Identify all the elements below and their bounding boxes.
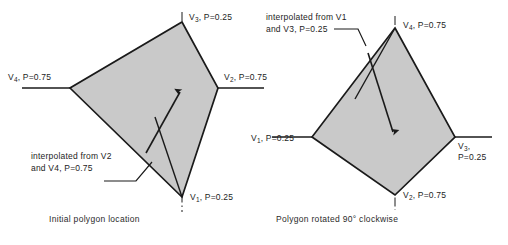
annotation-interpolated-left: interpolated from V2 and V4, P=0.75 <box>31 151 112 174</box>
panel-rotated <box>272 16 492 210</box>
vertex-label-v3-right: V3, P=0.25 <box>458 141 486 163</box>
annotation-interpolated-right: interpolated from V1 and V3, P=0.25 <box>266 12 347 35</box>
vertex-label-v3-right-line2: P=0.25 <box>458 152 486 163</box>
annotation-left-line2: and V4, P=0.75 <box>31 163 112 175</box>
vertex-label-v3-right-line1: V3, <box>458 141 486 152</box>
annotation-left-line1: interpolated from V2 <box>31 151 112 163</box>
annotation-right-line1: interpolated from V1 <box>266 12 347 24</box>
panel-initial <box>22 12 264 212</box>
vertex-label-v2-right: V2, P=0.75 <box>403 190 446 201</box>
vertex-label-v4-right: V4, P=0.75 <box>403 20 446 31</box>
vertex-label-v4-left: V4, P=0.75 <box>8 72 51 83</box>
caption-rotated: Polygon rotated 90° clockwise <box>276 214 398 224</box>
vertex-label-v3-left: V3, P=0.25 <box>189 12 232 23</box>
vertex-label-v2-left: V2, P=0.75 <box>224 72 267 83</box>
vertex-label-v1-right: V1, P=0.25 <box>251 133 294 144</box>
polygon-rotated <box>312 28 455 195</box>
diagram-canvas: V3, P=0.25 V4, P=0.75 V2, P=0.75 V1, P=0… <box>0 0 508 245</box>
annotation-right-line2: and V3, P=0.25 <box>266 24 347 36</box>
vertex-label-v1-left: V1, P=0.25 <box>190 192 233 203</box>
polygon-interpolation-diagram <box>0 0 508 245</box>
caption-initial: Initial polygon location <box>49 214 140 224</box>
